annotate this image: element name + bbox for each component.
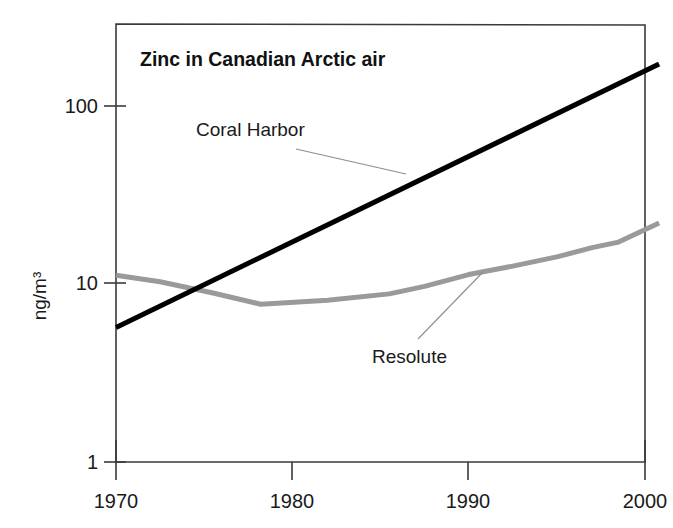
y-tick-label-10: 10	[76, 272, 98, 294]
y-axis-title: ng/m³	[29, 272, 50, 321]
series-line-resolute	[116, 223, 659, 304]
x-axis-tick-labels: 1970 1980 1990 2000	[94, 490, 668, 512]
x-tick-label-1980: 1980	[270, 490, 315, 512]
plot-frame	[116, 24, 645, 462]
series-line-coral-harbor	[116, 64, 659, 327]
leader-line-resolute	[418, 272, 483, 339]
annotation-coral-harbor: Coral Harbor	[196, 119, 406, 174]
x-axis-ticks	[116, 440, 645, 480]
annotation-label-resolute: Resolute	[372, 346, 447, 367]
y-axis-tick-labels: 100 10 1	[65, 95, 98, 473]
chart-title: Zinc in Canadian Arctic air	[140, 48, 386, 70]
figure-container: 100 10 1 ng/m³ 1970 1980 1990 2000 Zinc …	[0, 0, 673, 528]
y-axis-ticks	[104, 106, 126, 462]
x-tick-label-1990: 1990	[446, 490, 491, 512]
y-tick-label-100: 100	[65, 95, 98, 117]
x-tick-label-2000: 2000	[623, 490, 668, 512]
leader-line-coral-harbor	[296, 149, 406, 174]
annotation-label-coral-harbor: Coral Harbor	[196, 119, 305, 140]
x-tick-label-1970: 1970	[94, 490, 139, 512]
y-tick-label-1: 1	[87, 451, 98, 473]
axis-box	[116, 24, 645, 462]
zinc-arctic-air-line-chart: 100 10 1 ng/m³ 1970 1980 1990 2000 Zinc …	[0, 0, 673, 528]
